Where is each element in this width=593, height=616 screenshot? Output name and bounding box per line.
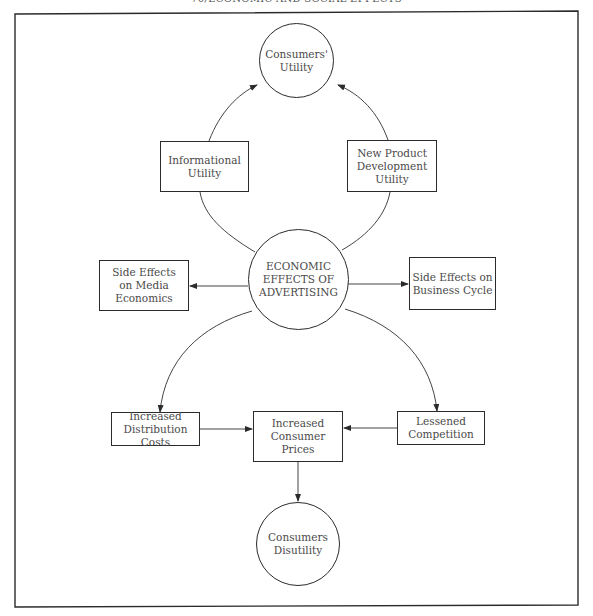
node-consumers-disutility: Consumers Disutility: [256, 502, 340, 586]
node-label: ECONOMIC EFFECTS OF ADVERTISING: [259, 260, 338, 299]
node-increased-distribution-costs: Increased Distribution Costs: [111, 412, 200, 446]
node-label: Side Effects on Business Cycle: [412, 271, 492, 297]
node-label: Consumers' Utility: [265, 48, 328, 74]
node-label: Consumers Disutility: [268, 531, 328, 557]
connector-informational-lower: [200, 192, 255, 252]
node-new-product-development-utility: New Product Development Utility: [347, 140, 437, 192]
node-label: Increased Consumer Prices: [271, 417, 325, 456]
node-label: Side Effects on Media Economics: [112, 266, 176, 305]
node-lessened-competition: Lessened Competition: [397, 411, 485, 445]
connector-informational-upper: [209, 85, 257, 141]
node-label: New Product Development Utility: [357, 147, 427, 186]
arrow-to-lessened-competition: [345, 309, 437, 411]
node-label: Increased Distribution Costs: [112, 410, 199, 449]
node-label: Informational Utility: [168, 154, 241, 180]
arrow-to-distribution-costs: [160, 311, 252, 412]
node-economic-effects-of-advertising: ECONOMIC EFFECTS OF ADVERTISING: [248, 229, 349, 330]
node-label: Lessened Competition: [408, 415, 474, 441]
node-consumers-utility: Consumers' Utility: [259, 23, 334, 98]
node-informational-utility: Informational Utility: [160, 141, 249, 192]
connector-newproduct-upper: [338, 85, 388, 140]
connector-newproduct-lower: [342, 192, 390, 250]
node-side-effects-business-cycle: Side Effects on Business Cycle: [409, 257, 496, 310]
node-increased-consumer-prices: Increased Consumer Prices: [253, 411, 343, 462]
node-side-effects-media-economics: Side Effects on Media Economics: [99, 260, 189, 311]
